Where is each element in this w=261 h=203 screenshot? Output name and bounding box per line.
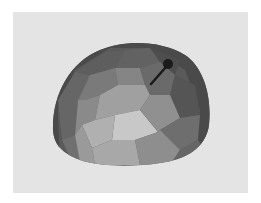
- hemisphere-render: [0, 0, 261, 203]
- hemisphere-facets: [50, 38, 215, 170]
